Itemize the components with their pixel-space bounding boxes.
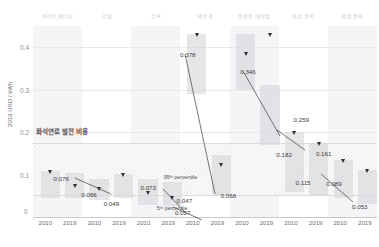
category-header-offshore-wind: 해상 풍력: [328, 9, 377, 23]
value-label-hydro-2010: 0.047: [177, 196, 192, 203]
y-tick-0-1: 0.1: [20, 171, 29, 178]
value-label-bioenergy-2019: 0.066: [81, 191, 96, 198]
marker-geothermal-2010: [97, 187, 101, 191]
x-tick-hydro-2010: 2010: [131, 217, 156, 229]
x-tick-onshore-wind-2019: 2019: [303, 217, 328, 229]
x-tick-csp-2019: 2019: [254, 217, 279, 229]
value-label-offshore-wind-2019: 0.089: [326, 179, 341, 186]
x-tick-geothermal-2019: 2019: [107, 217, 132, 229]
value-label-bioenergy-2010: 0.076: [53, 175, 68, 182]
x-tick-bioenergy-2010: 2010: [33, 217, 58, 229]
marker-offshore-wind-2019: [365, 169, 369, 173]
value-label-solar-pv-2010: 0.378: [180, 50, 195, 57]
y-tick-0-3: 0.3: [20, 86, 29, 93]
marker-csp-2010: [244, 52, 248, 56]
range-bar-csp-2010: [236, 34, 255, 89]
value-label-onshore-wind-2019: 0.161: [316, 150, 331, 157]
marker-csp-2019: [268, 33, 272, 37]
marker-solar-pv-2010: [195, 33, 199, 37]
value-label-offshore-wind-low: 0.053: [352, 202, 367, 209]
y-tick-0-4: 0.4: [20, 44, 29, 51]
plot-area: 0.4 0.3 0.2 0.1 화석연료 발전 비용: [33, 26, 377, 217]
marker-onshore-wind-2019: [317, 142, 321, 146]
y-axis-label: 2019 USD / kWh: [6, 82, 13, 127]
value-label-offshore-wind-2010: 0.115: [296, 178, 311, 185]
value-label-geothermal-2019: 0.073: [140, 183, 155, 190]
range-bar-solar-pv-2019: [212, 155, 231, 195]
x-tick-solar-pv-2010: 2010: [180, 217, 205, 229]
marker-bioenergy-2019: [73, 184, 77, 188]
percentile-high-note: 95ᵗʰ percentile: [164, 174, 198, 180]
category-header-solar-pv: 태양광: [180, 9, 229, 23]
value-label-csp-2010: 0.346: [240, 67, 255, 74]
renewable-cost-chart: 바이오에너지 지열 수력 태양광 집광형 태양열 육상 풍력 해상 풍력 201…: [0, 0, 379, 247]
value-label-onshore-wind-2010: 0.182: [276, 150, 291, 157]
percentile-low-note: 5ᵗʰ percentile: [157, 205, 188, 211]
marker-bioenergy-2010: [48, 170, 52, 174]
marker-solar-pv-2019: [219, 163, 223, 167]
category-header-csp: 집광형 태양열: [230, 9, 279, 23]
y-tick-0-2: 0.2: [20, 129, 29, 136]
x-axis-tick-row: 2010 2019 2010 2019 2010 2019 2010 2019 …: [33, 217, 377, 229]
x-tick-geothermal-2010: 2010: [82, 217, 107, 229]
value-label-csp-2019: 0.259: [294, 115, 309, 122]
value-label-solar-pv-2019: 0.068: [221, 192, 236, 199]
x-tick-onshore-wind-2010: 2010: [279, 217, 304, 229]
marker-offshore-wind-2010: [341, 159, 345, 163]
marker-hydro-2010: [146, 191, 150, 195]
x-tick-hydro-2019: 2019: [156, 217, 181, 229]
range-bar-offshore-wind-2019: [358, 170, 377, 204]
value-label-geothermal-2010: 0.049: [104, 199, 119, 206]
category-header-hydro: 수력: [131, 9, 180, 23]
x-tick-offshore-wind-2010: 2010: [328, 217, 353, 229]
x-tick-offshore-wind-2019: 2019: [353, 217, 378, 229]
marker-hydro-2019: [170, 196, 174, 200]
category-header-geothermal: 지열: [82, 9, 131, 23]
fossil-fuel-cost-band-label: 화석연료 발전 비용: [36, 126, 88, 136]
category-header-onshore-wind: 육상 풍력: [279, 9, 328, 23]
x-tick-csp-2010: 2010: [230, 217, 255, 229]
range-bar-geothermal-2019: [114, 174, 133, 197]
x-tick-solar-pv-2019: 2019: [205, 217, 230, 229]
marker-geothermal-2019: [121, 173, 125, 177]
range-bar-solar-pv-2010: [187, 34, 206, 93]
y-tick-0: 0: [24, 208, 28, 215]
x-tick-bioenergy-2019: 2019: [58, 217, 83, 229]
category-header-row: 바이오에너지 지열 수력 태양광 집광형 태양열 육상 풍력 해상 풍력: [33, 9, 377, 23]
range-bar-csp-2019: [260, 85, 279, 144]
marker-onshore-wind-2010: [292, 131, 296, 135]
category-header-bioenergy: 바이오에너지: [33, 9, 82, 23]
